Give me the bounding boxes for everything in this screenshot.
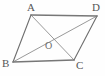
point-label-o: O bbox=[45, 41, 52, 51]
vertex-label-c: C bbox=[76, 60, 83, 71]
vertex-label-a: A bbox=[27, 2, 35, 13]
diagonal-ac bbox=[31, 15, 74, 60]
geometry-figure: A D B C O bbox=[0, 0, 105, 76]
side-ab bbox=[13, 15, 31, 62]
vertex-label-d: D bbox=[92, 2, 100, 13]
side-ad bbox=[31, 15, 97, 16]
geometry-canvas bbox=[0, 0, 105, 76]
vertex-label-b: B bbox=[2, 58, 9, 69]
side-bc bbox=[13, 60, 74, 62]
